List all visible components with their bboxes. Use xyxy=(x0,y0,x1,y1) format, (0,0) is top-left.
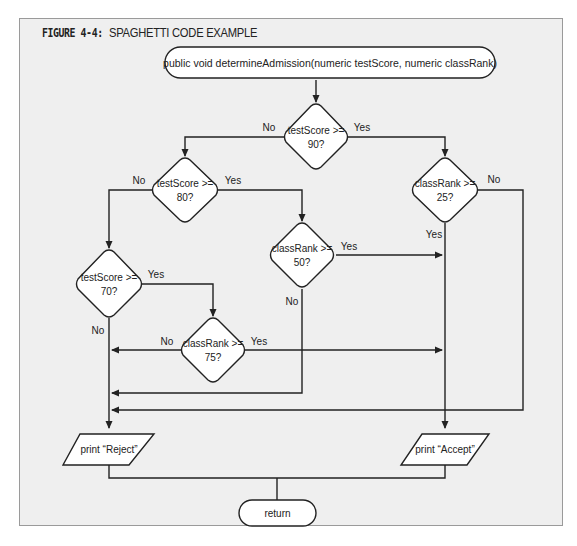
decision-text-line1: testScore >= xyxy=(288,125,345,136)
decision-text-line2: 25? xyxy=(437,192,454,203)
decision-text-line2: 70? xyxy=(101,286,118,297)
output-reject: print “Reject” xyxy=(63,434,154,465)
start-terminal: public void determineAdmission(numeric t… xyxy=(163,47,497,78)
decision-text-line2: 75? xyxy=(205,352,222,363)
branch-label-yes: Yes xyxy=(341,241,357,252)
decision-testscore-70: testScore >= 70? Yes No xyxy=(77,250,165,336)
output-accept-text: print “Accept” xyxy=(415,444,474,455)
decision-text-line2: 90? xyxy=(308,139,325,150)
branch-label-yes: Yes xyxy=(354,122,370,133)
branch-label-no: No xyxy=(263,122,276,133)
decision-text-line1: classRank >= xyxy=(272,243,333,254)
flowchart: public void determineAdmission(numeric t… xyxy=(0,0,577,546)
decision-text-line2: 50? xyxy=(294,257,311,268)
branch-label-no: No xyxy=(133,175,146,186)
connector-outputs-merge xyxy=(109,465,445,478)
decision-classrank-25: classRank >= 25? No Yes xyxy=(413,158,501,240)
connector-d2-no xyxy=(109,190,152,248)
start-terminal-text: public void determineAdmission(numeric t… xyxy=(163,57,497,69)
branch-label-yes: Yes xyxy=(426,229,442,240)
output-reject-text: print “Reject” xyxy=(80,444,137,455)
connector-d2-yes xyxy=(218,190,302,221)
decision-text-line1: testScore >= xyxy=(81,272,138,283)
branch-label-yes: Yes xyxy=(251,336,267,347)
decision-text-line2: 80? xyxy=(177,192,194,203)
connector-d3-no xyxy=(112,190,523,410)
output-accept: print “Accept” xyxy=(401,434,489,465)
connector-d1-no xyxy=(185,137,285,156)
branch-label-no: No xyxy=(161,336,174,347)
branch-label-no: No xyxy=(92,325,105,336)
branch-label-yes: Yes xyxy=(148,269,164,280)
end-terminal: return xyxy=(239,500,316,526)
connector-d5-yes xyxy=(142,284,213,316)
branch-label-yes: Yes xyxy=(225,175,241,186)
branch-label-no: No xyxy=(488,174,501,185)
decision-classrank-50: classRank >= 50? Yes No xyxy=(271,223,358,307)
branch-label-no: No xyxy=(286,296,299,307)
decision-text-line1: classRank >= xyxy=(415,178,476,189)
decision-text-line1: testScore >= xyxy=(157,178,214,189)
connector-d1-yes xyxy=(348,137,445,156)
decision-text-line1: classRank >= xyxy=(183,338,244,349)
end-terminal-text: return xyxy=(264,508,290,519)
